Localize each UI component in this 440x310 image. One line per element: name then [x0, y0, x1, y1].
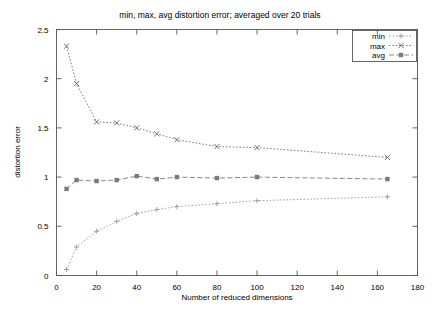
data-point-marker	[385, 177, 389, 181]
distortion-error-line-chart: min, max, avg distortion error; averaged…	[0, 0, 440, 310]
y-tick-label: 1.5	[37, 124, 49, 133]
x-tick-label: 120	[290, 283, 304, 292]
legend-label-avg: avg	[372, 51, 385, 60]
y-tick-label: 2.5	[37, 26, 49, 35]
x-axis-label: Number of reduced dimensions	[181, 293, 292, 302]
y-tick-label: 2	[44, 75, 49, 84]
chart-title: min, max, avg distortion error; averaged…	[119, 10, 320, 20]
legend-label-max: max	[370, 42, 385, 51]
data-point-marker	[255, 175, 259, 179]
y-axis-label: distortion error	[13, 126, 22, 178]
y-tick-label: 1	[44, 173, 49, 182]
data-point-marker	[114, 178, 118, 182]
x-tick-label: 80	[212, 283, 221, 292]
x-tick-label: 160	[371, 283, 385, 292]
data-point-marker	[94, 179, 98, 183]
data-point-marker	[155, 177, 159, 181]
y-tick-label: 0	[44, 272, 49, 281]
x-tick-label: 60	[172, 283, 181, 292]
legend-label-min: min	[372, 32, 385, 41]
x-tick-label: 140	[331, 283, 345, 292]
chart-container: min, max, avg distortion error; averaged…	[0, 0, 440, 310]
x-tick-label: 20	[92, 283, 101, 292]
y-tick-label: 0.5	[37, 222, 49, 231]
x-tick-label: 180	[411, 283, 425, 292]
x-tick-label: 40	[132, 283, 141, 292]
x-tick-label: 0	[54, 283, 59, 292]
data-point-marker	[74, 178, 78, 182]
data-point-marker	[215, 176, 219, 180]
data-point-marker	[64, 187, 68, 191]
data-point-marker	[135, 174, 139, 178]
data-point-marker	[175, 175, 179, 179]
x-tick-label: 100	[250, 283, 264, 292]
data-point-marker	[399, 53, 403, 57]
